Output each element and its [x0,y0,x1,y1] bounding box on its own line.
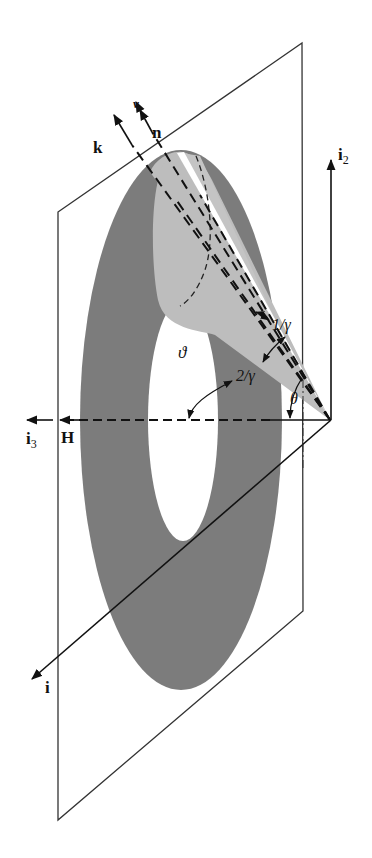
label-two-over-gamma: 2/γ [236,367,255,385]
label-one-over-gamma: 1/γ [272,316,291,334]
diagram-canvas: k v n i2 i3 H i ϑ 1/γ 2/γ θ [0,0,372,858]
label-i: i [45,678,50,697]
label-i2: i2 [338,145,349,167]
label-k: k [93,138,103,157]
label-v: v [133,96,139,111]
label-n: n [152,123,162,142]
label-theta-small: θ [290,390,298,407]
label-H: H [61,428,74,447]
k-arrow [114,115,132,145]
label-i3: i3 [26,429,37,451]
